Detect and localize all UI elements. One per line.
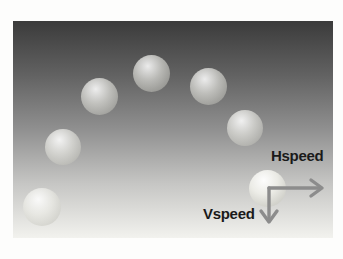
trajectory-ball: [190, 68, 227, 105]
trajectory-ball: [45, 129, 81, 165]
trajectory-stage: Hspeed Vspeed: [13, 21, 333, 238]
trajectory-ball: [227, 110, 263, 146]
trajectory-ball: [81, 78, 118, 115]
trajectory-ball: [23, 188, 61, 226]
trajectory-ball: [249, 170, 286, 207]
hspeed-label: Hspeed: [271, 147, 323, 164]
trajectory-ball: [133, 55, 170, 92]
figure-projectile-motion: Hspeed Vspeed: [0, 0, 343, 259]
vspeed-label: Vspeed: [203, 205, 255, 222]
